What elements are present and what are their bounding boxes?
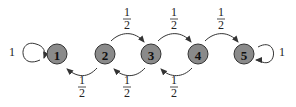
node-5: 5 — [234, 44, 254, 64]
edge-2-1: 1 2 — [67, 68, 97, 100]
edge-4-5: 1 2 — [205, 5, 238, 42]
edge-label-3-2-num: 1 — [124, 73, 130, 87]
edge-label-3-2-den: 2 — [124, 86, 130, 100]
node-label-1: 1 — [54, 48, 61, 63]
edge-label-1-1: 1 — [9, 45, 15, 59]
node-2: 2 — [95, 44, 115, 64]
edge-label-5-5: 1 — [279, 45, 285, 59]
node-4: 4 — [188, 44, 208, 64]
edge-2-3: 1 2 — [111, 5, 144, 42]
edge-1-1: 1 — [9, 43, 45, 62]
edge-3-2: 1 2 — [114, 68, 145, 100]
edge-label-2-3-num: 1 — [124, 5, 130, 19]
edge-label-3-4-den: 2 — [171, 18, 177, 32]
edge-label-4-5-num: 1 — [218, 5, 224, 19]
markov-chain-diagram: 1 1 2 1 2 1 2 1 2 1 2 1 2 — [0, 0, 296, 107]
edge-4-3: 1 2 — [161, 68, 192, 100]
edge-label-2-1-den: 2 — [79, 86, 85, 100]
edge-label-4-3-num: 1 — [171, 73, 177, 87]
node-label-4: 4 — [195, 48, 202, 63]
edge-label-4-3-den: 2 — [171, 86, 177, 100]
node-1: 1 — [47, 44, 67, 64]
edge-3-4: 1 2 — [158, 5, 191, 42]
edge-label-3-4-num: 1 — [171, 5, 177, 19]
edge-label-2-3-den: 2 — [124, 18, 130, 32]
node-label-2: 2 — [102, 48, 109, 63]
node-label-3: 3 — [148, 48, 155, 63]
node-3: 3 — [141, 44, 161, 64]
edge-label-4-5-den: 2 — [218, 18, 224, 32]
edge-5-5: 1 — [256, 45, 285, 63]
node-label-5: 5 — [241, 48, 248, 63]
edge-label-2-1-num: 1 — [79, 73, 85, 87]
